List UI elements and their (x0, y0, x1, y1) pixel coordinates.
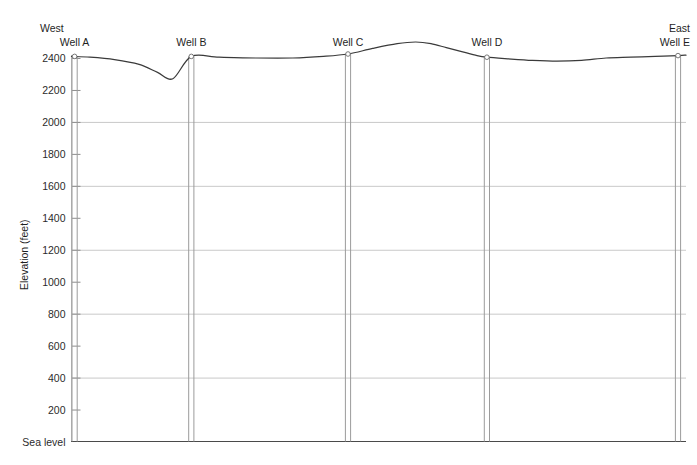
y-tick-label-1800: 1800 (42, 148, 66, 160)
wellhead-marker (72, 54, 77, 59)
y-tick-label-1400: 1400 (42, 212, 66, 224)
well-well-c[interactable] (345, 54, 350, 442)
well-label-well-b: Well B (176, 36, 206, 48)
y-tick-label-2000: 2000 (42, 116, 66, 128)
well-well-e[interactable] (675, 56, 680, 442)
y-tick-label-2400: 2400 (42, 52, 66, 64)
east-direction-label: East (669, 22, 690, 34)
well-label-group: Well AWell BWell CWell DWell E (60, 36, 690, 48)
y-tick-label-1200: 1200 (42, 244, 66, 256)
west-direction-label: West (40, 22, 64, 34)
y-axis-title: Elevation (feet) (18, 219, 30, 290)
y-tick-label-2200: 2200 (42, 84, 66, 96)
wellhead-marker (485, 55, 490, 60)
land-surface-profile-line (72, 42, 687, 79)
well-label-well-d: Well D (472, 36, 503, 48)
y-tick-label-sea-level: Sea level (22, 436, 65, 448)
y-tick-label-800: 800 (48, 308, 66, 320)
well-group (72, 54, 681, 442)
wellhead-marker (189, 54, 194, 59)
wellhead-marker-group (72, 52, 680, 60)
well-well-b[interactable] (189, 56, 194, 441)
wellhead-marker (346, 52, 351, 57)
y-tick-label-400: 400 (48, 372, 66, 384)
well-label-well-e: Well E (660, 36, 690, 48)
y-tick-label-1600: 1600 (42, 180, 66, 192)
geologic-cross-section-chart: 2400220020001800160014001200100080060040… (0, 0, 697, 465)
well-well-d[interactable] (484, 57, 489, 441)
wellhead-marker (676, 53, 681, 58)
well-label-well-a: Well A (60, 36, 90, 48)
y-tick-label-200: 200 (48, 404, 66, 416)
gridline-group (72, 122, 687, 378)
well-well-a[interactable] (72, 56, 77, 441)
y-tick-label-1000: 1000 (42, 276, 66, 288)
cross-section-figure: 2400220020001800160014001200100080060040… (0, 0, 697, 465)
well-label-well-c: Well C (333, 36, 364, 48)
y-tick-label-600: 600 (48, 340, 66, 352)
